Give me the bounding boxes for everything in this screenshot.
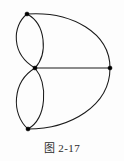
figure-caption: 图2-17 <box>0 139 124 155</box>
vertex-right <box>108 66 112 70</box>
caption-figure-number: 17 <box>68 142 80 154</box>
figure-container: 图2-17 <box>0 0 124 161</box>
graph-diagram <box>0 0 124 140</box>
edge-center-bottom-left-arc <box>16 68 35 129</box>
vertex-center <box>33 66 37 70</box>
edge-top-right-outer-arc <box>27 14 110 68</box>
vertex-top <box>25 12 29 16</box>
edge-top-center-right-arc <box>27 14 43 68</box>
edge-center-bottom-right-arc <box>28 68 44 129</box>
caption-prefix-label: 图 <box>44 142 56 154</box>
vertex-bottom <box>26 127 30 131</box>
edge-top-center-left-arc <box>16 14 35 68</box>
